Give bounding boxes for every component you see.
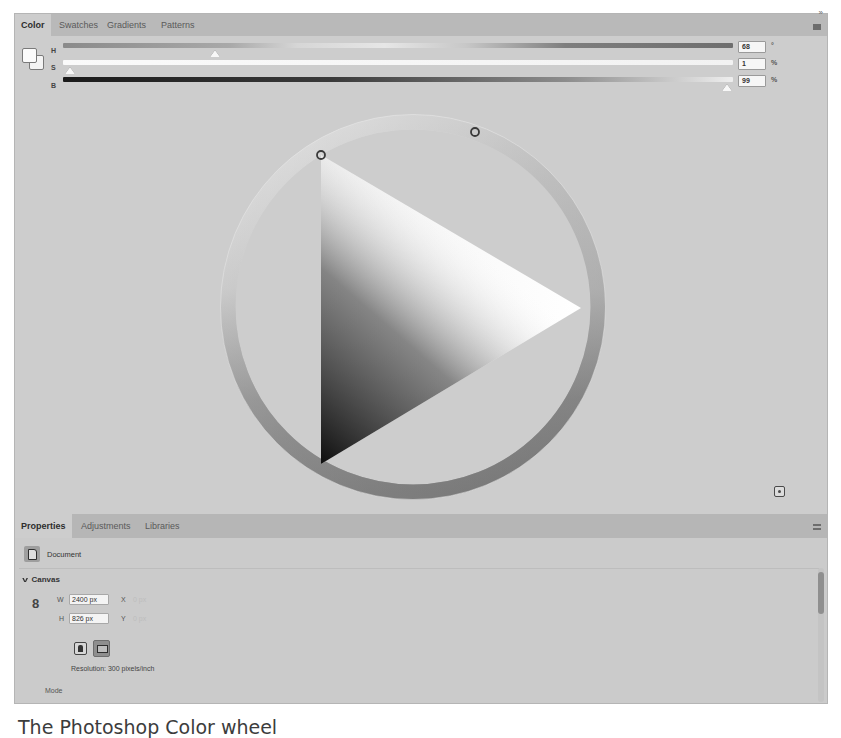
properties-panel-tabbar: Properties Adjustments Libraries	[15, 514, 827, 538]
canvas-section-title: Canvas	[31, 575, 59, 584]
divider	[19, 568, 819, 569]
document-label: Document	[47, 550, 81, 559]
x-label: X	[121, 596, 126, 603]
link-dimensions-icon[interactable]: 8	[32, 599, 39, 609]
color-panel: Color Swatches Gradients Patterns » H 68…	[15, 14, 827, 514]
color-wheel-graphic	[15, 14, 827, 514]
chevron-down-icon: v	[22, 575, 28, 584]
height-label: H	[59, 615, 64, 622]
toggle-wheel-mode-icon[interactable]	[774, 486, 785, 497]
resolution-text: Resolution: 300 pixels/inch	[71, 665, 154, 672]
scrollbar-thumb[interactable]	[818, 572, 824, 614]
tab-libraries[interactable]: Libraries	[139, 514, 186, 538]
properties-panel: Properties Adjustments Libraries Documen…	[15, 514, 827, 703]
figure-caption: The Photoshop Color wheel	[18, 716, 277, 738]
mode-label: Mode	[45, 687, 63, 694]
foreground-color-swatch[interactable]	[22, 48, 37, 63]
panel-menu-icon[interactable]	[813, 524, 821, 530]
color-wheel[interactable]	[15, 14, 827, 514]
y-label: Y	[121, 615, 126, 622]
document-icon	[24, 546, 40, 562]
portrait-orientation-button[interactable]	[74, 642, 87, 655]
width-label: W	[57, 596, 64, 603]
y-input[interactable]: 0 px	[133, 615, 146, 622]
properties-scrollbar[interactable]	[818, 568, 824, 702]
photoshop-panels: Color Swatches Gradients Patterns » H 68…	[14, 13, 828, 704]
width-input[interactable]: 2400 px	[69, 594, 109, 605]
landscape-orientation-button[interactable]	[93, 640, 110, 657]
height-input[interactable]: 826 px	[69, 613, 109, 624]
canvas-section-toggle[interactable]: vCanvas	[23, 575, 60, 584]
tab-adjustments[interactable]: Adjustments	[75, 514, 137, 538]
tab-properties[interactable]: Properties	[15, 514, 72, 538]
x-input[interactable]: 0 px	[133, 596, 146, 603]
